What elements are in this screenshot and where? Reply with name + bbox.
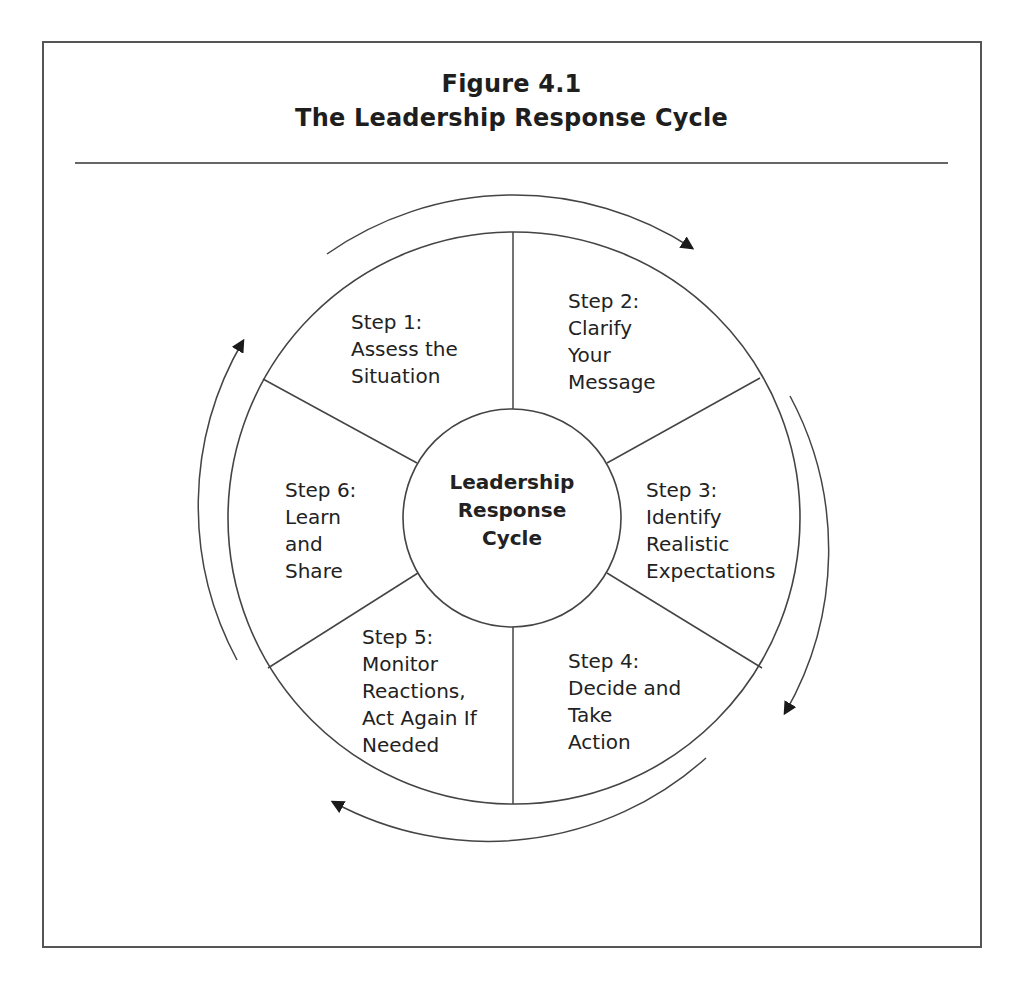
step-3-label: Step 3: Identify Realistic Expectations [646, 477, 775, 585]
divider-top-left [263, 379, 417, 463]
step-6-label: Step 6: Learn and Share [285, 477, 356, 585]
arrow-left-icon [198, 341, 243, 660]
step-5-label: Step 5: Monitor Reactions, Act Again If … [362, 624, 477, 759]
center-label: Leadership Response Cycle [412, 468, 612, 552]
arrow-right-icon [785, 396, 829, 713]
step-2-label: Step 2: Clarify Your Message [568, 288, 656, 396]
arrow-bottom-icon [333, 758, 706, 841]
step-4-label: Step 4: Decide and Take Action [568, 648, 681, 756]
step-1-label: Step 1: Assess the Situation [351, 309, 458, 390]
arrow-top-icon [327, 195, 692, 254]
